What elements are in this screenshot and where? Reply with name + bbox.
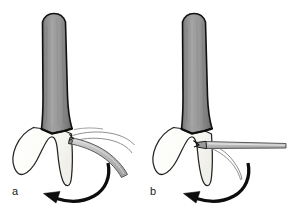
- dental-elevator-figure: [0, 0, 290, 223]
- panel-label-a: a: [12, 186, 18, 197]
- panel-label-b: b: [150, 186, 156, 197]
- figure-container: a b: [0, 0, 290, 223]
